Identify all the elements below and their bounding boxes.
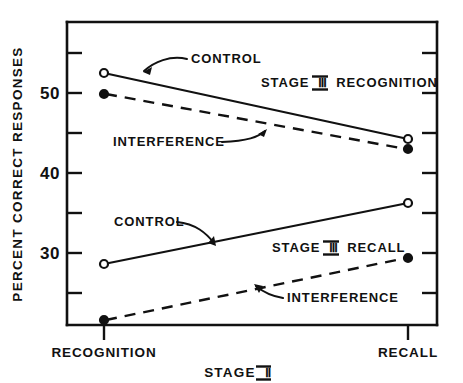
annotation-group-recall-rest: RECALL (347, 240, 405, 255)
annotation-control-upper-label: CONTROL (191, 51, 262, 66)
data-point-recognition-interference-recall (404, 145, 412, 153)
data-point-recognition-interference-recognition (100, 90, 108, 98)
annotation-interference-lower: INTERFERENCE (254, 284, 399, 305)
annotation-group-recall-stage: STAGE (272, 240, 320, 255)
y-tick-label-40: 40 (40, 164, 60, 183)
x-category-label-recall: RECALL (378, 345, 438, 360)
annotation-control-lower: CONTROL (114, 214, 216, 246)
x-category-label-recognition: RECOGNITION (51, 345, 156, 360)
data-point-recall-control-recognition (100, 260, 108, 268)
y-axis-ticks (67, 53, 82, 293)
data-point-recognition-control-recall (404, 135, 412, 143)
annotation-control-upper: CONTROL (143, 51, 262, 75)
data-point-recall-interference-recall (404, 254, 412, 262)
annotation-group-recognition-rest: RECOGNITION (336, 75, 438, 90)
axes-frame (67, 22, 437, 325)
data-point-recall-interference-recognition (100, 316, 108, 324)
data-point-recognition-control-recognition (100, 69, 108, 77)
annotation-interference-upper-label: INTERFERENCE (113, 134, 225, 149)
annotation-group-recognition: STAGE Ⅲ RECOGNITION (261, 75, 438, 90)
chart-figure: 50 40 30 PERCENT CORRECT RESPONSES RECOG… (0, 0, 463, 383)
x-axis-title: STAGE Ⅱ (204, 365, 272, 380)
annotation-group-recognition-stage: STAGE (261, 75, 309, 90)
y-tick-label-50: 50 (40, 84, 60, 103)
annotation-interference-upper-leader (222, 131, 265, 142)
series-line-recall-interference (106, 258, 406, 320)
annotation-interference-upper: INTERFERENCE (113, 129, 267, 149)
x-axis-title-stage: STAGE (204, 365, 256, 380)
series-recall-interference (100, 254, 412, 324)
series-recall-control (100, 199, 412, 268)
svg-text:STAGE Ⅲ RECOGNITION: STAGE Ⅲ RECOGNITION (261, 75, 438, 90)
line-chart: 50 40 30 PERCENT CORRECT RESPONSES RECOG… (0, 0, 463, 383)
y-axis-title: PERCENT CORRECT RESPONSES (10, 46, 25, 301)
annotation-control-lower-label: CONTROL (114, 214, 185, 229)
annotation-group-recall: STAGE Ⅲ RECALL (272, 240, 405, 255)
data-point-recall-control-recall (404, 199, 412, 207)
y-tick-label-30: 30 (40, 244, 60, 263)
x-axis-ticks (104, 325, 408, 340)
annotation-interference-lower-label: INTERFERENCE (287, 290, 399, 305)
